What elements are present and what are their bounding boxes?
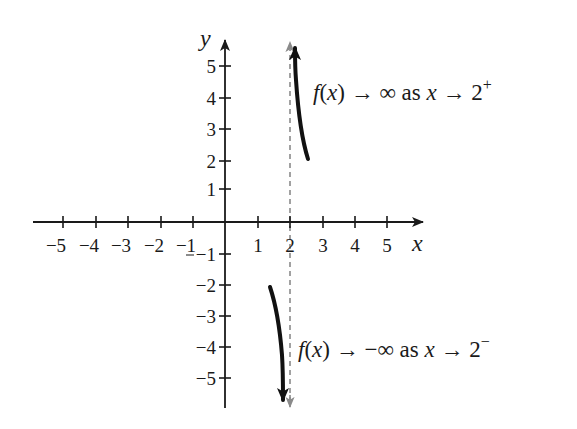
x-tick-label: −4 xyxy=(79,235,100,256)
x-tick-label: −2 xyxy=(144,235,164,256)
x-tick-labels: −5 −4 −3 −2 −1 1 2 3 4 5 xyxy=(46,235,392,256)
y-tick-label: 2 xyxy=(207,151,217,172)
x-axis-label: x xyxy=(411,230,423,256)
x-tick-label: −3 xyxy=(111,235,131,256)
y-tick-label: 3 xyxy=(207,119,217,140)
y-tick-label: −4 xyxy=(196,337,217,358)
y-tick-label: −2 xyxy=(196,275,216,296)
x-tick-label: −5 xyxy=(46,235,66,256)
y-tick-label: −1 xyxy=(196,244,216,265)
x-tick-label: −1 xyxy=(176,235,196,256)
y-tick-label: 4 xyxy=(207,88,217,109)
curve-left-branch xyxy=(270,287,283,400)
y-axis-label: y xyxy=(198,25,211,51)
limit-graph: −5 −4 −3 −2 −1 1 2 3 4 5 5 4 3 2 1 −1 −2… xyxy=(0,0,577,429)
y-tick-label: −5 xyxy=(196,368,216,389)
x-tick-label: 2 xyxy=(285,235,295,256)
x-tick-label: 1 xyxy=(253,235,263,256)
annotation-left-limit: f(x) → −∞ as x → 2− xyxy=(298,333,490,362)
x-tick-label: 5 xyxy=(382,235,392,256)
annotation-right-limit: f(x) → ∞ as x → 2+ xyxy=(313,76,492,105)
x-tick-label: 3 xyxy=(318,235,328,256)
x-tick-label: 4 xyxy=(350,235,360,256)
y-tick-label: −3 xyxy=(196,306,216,327)
curve-right-branch xyxy=(295,48,308,159)
y-tick-label: 5 xyxy=(207,56,217,77)
y-tick-label: 1 xyxy=(207,179,217,200)
